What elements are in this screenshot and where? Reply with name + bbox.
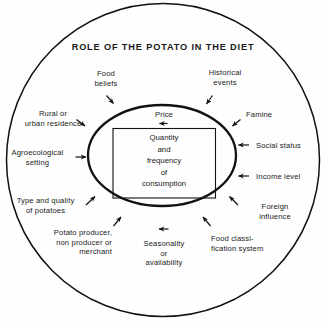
arrow-potato-producer — [114, 217, 122, 226]
label-food-beliefs: Food beliefs — [75, 69, 137, 88]
label-seasonality-availability: Seasonality or availability — [132, 239, 196, 268]
core-box-text: Quantity and frequency of consumption — [113, 132, 215, 190]
label-agroecological-setting: Agroecological setting — [2, 148, 73, 167]
label-potato-producer: Potato producer, non producer or merchan… — [30, 228, 112, 257]
label-income-level: Income level — [256, 172, 324, 182]
label-food-classification-system: Food classi- fication system — [211, 234, 289, 253]
arrow-food-classification — [203, 217, 211, 226]
price-label: Price — [132, 110, 196, 119]
arrow-historical-events — [207, 96, 213, 105]
label-historical-events: Historical events — [192, 68, 258, 87]
arrow-type-quality — [86, 197, 95, 206]
arrow-food-beliefs — [107, 96, 114, 104]
label-rural-urban-residence: Rural or urban residence — [14, 109, 92, 128]
label-social-status: Social status — [256, 141, 324, 151]
arrow-foreign-influence — [230, 197, 239, 206]
label-type-and-quality-of-potatoes: Type and quality of potatoes — [6, 196, 85, 215]
arrow-famine — [233, 120, 241, 127]
label-famine: Famine — [246, 110, 306, 120]
potato-diet-diagram: ROLE OF THE POTATO IN THE DIET Price Qua… — [0, 0, 326, 322]
label-foreign-influence: Foreign influence — [244, 202, 306, 221]
page-title: ROLE OF THE POTATO IN THE DIET — [0, 42, 326, 52]
